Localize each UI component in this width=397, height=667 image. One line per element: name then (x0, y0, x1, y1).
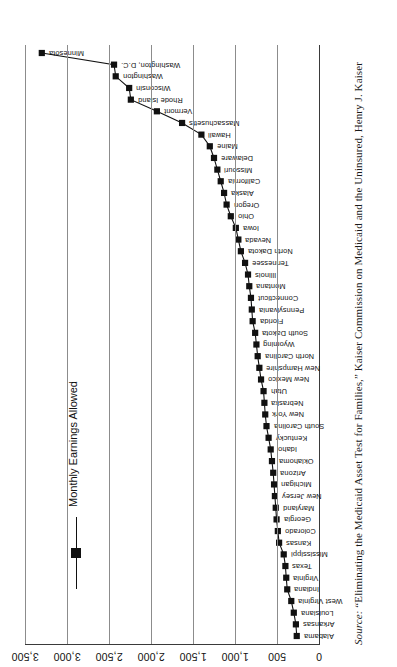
data-point-marker (261, 400, 267, 406)
data-point-label: Tennessee (252, 259, 289, 267)
data-point-marker (128, 97, 134, 103)
data-point-label: New Jersey (282, 492, 322, 500)
data-point-marker (245, 271, 251, 277)
data-point-label: Kansas (286, 539, 311, 547)
data-point-label: Alabama (304, 632, 334, 640)
data-point-marker (269, 458, 275, 464)
data-point-marker (111, 62, 117, 68)
data-point-marker (284, 586, 290, 592)
data-point-marker (228, 213, 234, 219)
data-point-label: California (228, 177, 260, 185)
axis-tick-label: 2,000 (137, 651, 164, 663)
data-point-label: Nevada (245, 236, 271, 244)
data-point-marker (39, 50, 45, 56)
data-point-label: Georgia (284, 516, 311, 524)
data-point-label: Idaho (278, 446, 297, 454)
data-point-marker (246, 283, 252, 289)
data-point-marker (198, 132, 204, 138)
data-point-label: Arkansas (303, 621, 335, 629)
axis-tick-label: 0 (316, 651, 322, 663)
rotated-chart-canvas: AlabamaArkansasLouisianaWest VirginiaInd… (0, 0, 397, 667)
data-point-marker (291, 610, 297, 616)
data-point-marker (252, 330, 258, 336)
data-point-label: North Carolina (265, 352, 314, 360)
data-point-marker (207, 143, 213, 149)
data-point-label: Maryland (283, 504, 314, 512)
data-point-label: Mississippi (291, 551, 328, 559)
axis-tick-label: 3,500 (11, 651, 38, 663)
data-point-marker (154, 108, 160, 114)
data-point-label: Washington (123, 73, 163, 81)
data-point-marker (288, 598, 294, 604)
data-point-marker (282, 563, 288, 569)
axis-tick-label: 3,000 (53, 651, 80, 663)
data-point-marker (242, 260, 248, 266)
source-note: Source: “Eliminating the Medicaid Asset … (352, 62, 364, 645)
data-point-label: South Carolina (274, 422, 324, 430)
chart-legend: Monthly Earnings Allowed (64, 439, 90, 589)
data-point-label: Vermont (164, 108, 192, 116)
data-point-label: Hawaii (208, 131, 231, 139)
data-point-label: Wyoming (263, 341, 294, 349)
data-point-label: Wisconsin (136, 84, 171, 92)
source-note-text: “Eliminating the Medicaid Asset Test for… (352, 62, 364, 610)
gridline (277, 45, 278, 644)
data-point-marker (214, 167, 220, 173)
data-point-marker (260, 388, 266, 394)
data-point-marker (268, 446, 274, 452)
data-point-label: Missouri (224, 166, 252, 174)
data-point-label: Colorado (285, 527, 316, 535)
data-point-label: Utah (271, 387, 287, 395)
data-point-marker (249, 306, 255, 312)
data-point-label: Massachusetts (189, 119, 240, 127)
data-point-marker (283, 575, 289, 581)
data-point-marker (294, 633, 300, 639)
data-point-marker (221, 190, 227, 196)
data-point-marker (258, 376, 264, 382)
data-point-marker (281, 551, 287, 557)
data-point-label: Delaware (221, 154, 253, 162)
data-point-label: Indiana (294, 586, 319, 594)
data-point-label: Virginia (293, 574, 318, 582)
data-point-label: Illinois (255, 271, 276, 279)
data-point-marker (256, 365, 262, 371)
data-point-label: Arizona (280, 469, 306, 477)
data-point-marker (224, 201, 230, 207)
legend-label: Monthly Earnings Allowed (67, 381, 79, 507)
data-point-label: North Dakota (248, 247, 293, 255)
axis-tick-label: 2,500 (95, 651, 122, 663)
data-point-marker (218, 178, 224, 184)
axis-tick-label: 1,500 (179, 651, 206, 663)
data-point-label: Ohio (238, 212, 254, 220)
legend-square-marker-icon (71, 548, 81, 558)
data-point-marker (238, 248, 244, 254)
data-point-label: Kentucky (276, 434, 307, 442)
data-point-marker (255, 353, 261, 359)
data-point-label: Florida (260, 317, 283, 325)
data-point-marker (179, 120, 185, 126)
data-point-marker (211, 155, 217, 161)
axis-tick-label: 1,000 (221, 651, 248, 663)
data-point-label: Connecticut (258, 294, 298, 302)
data-point-label: South Dakota (262, 329, 308, 337)
data-point-label: Montana (256, 282, 285, 290)
data-point-label: New Hampshire (266, 364, 320, 372)
data-point-marker (248, 295, 254, 301)
gridline (25, 45, 26, 644)
data-point-marker (262, 411, 268, 417)
gridline (235, 45, 236, 644)
data-point-marker (293, 621, 299, 627)
data-point-label: Oregon (234, 201, 259, 209)
data-point-label: Oklahoma (279, 457, 313, 465)
data-point-marker (270, 470, 276, 476)
data-point-label: New Mexico (268, 376, 309, 384)
data-point-marker (235, 236, 241, 242)
source-note-lead: Source: (352, 610, 364, 645)
data-point-marker (250, 318, 256, 324)
data-point-label: Michigan (281, 481, 311, 489)
gridline (193, 45, 194, 644)
data-point-label: Louisiana (301, 609, 334, 617)
axis-tick-label: 500 (268, 651, 286, 663)
data-point-label: Pennsylvania (259, 306, 304, 314)
data-point-marker (266, 435, 272, 441)
